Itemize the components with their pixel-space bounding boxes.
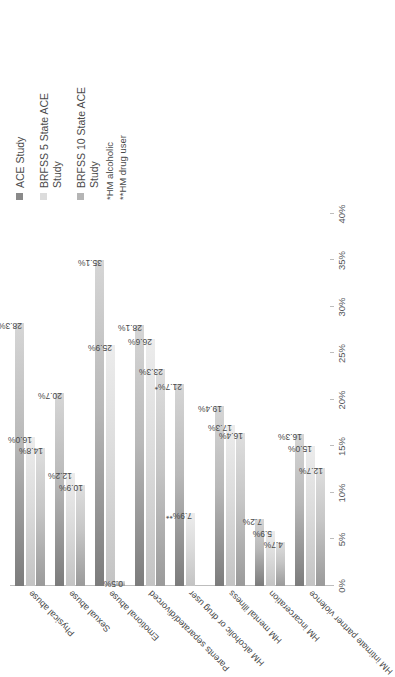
bar[interactable]: [175, 384, 184, 586]
legend-swatch-icon: [77, 193, 84, 200]
axis-tick-label: 10%: [336, 483, 347, 502]
bar[interactable]: [236, 433, 245, 586]
axis-tick-label: 30%: [336, 297, 347, 316]
axis-tick: [330, 260, 334, 261]
bar-value-label: 23.3%: [138, 367, 162, 377]
legend-item[interactable]: BRFSS 10 State ACE Study: [75, 50, 100, 200]
bar[interactable]: [135, 325, 144, 586]
axis-tick-label: 20%: [336, 390, 347, 409]
axis-tick: [330, 446, 334, 447]
bar[interactable]: [36, 448, 45, 586]
legend-item-label: BRFSS 5 State ACE Study: [38, 93, 63, 188]
axis-tick-label: 40%: [336, 204, 347, 223]
bar-value-label: 35.1%: [77, 258, 101, 268]
chart-footnotes: *HM alcoholic **HM drug user: [104, 135, 130, 200]
axis-tick-label: 15%: [336, 437, 347, 456]
bar-value-label: 21.7%*: [154, 382, 181, 392]
bar-value-label: 14.8%: [18, 446, 42, 456]
legend-item[interactable]: BRFSS 5 State ACE Study: [38, 50, 63, 200]
bar-value-label: 16.4%: [218, 431, 242, 441]
bar-value-label: 20.7%: [37, 392, 61, 402]
legend-item-label: BRFSS 10 State ACE Study: [75, 87, 100, 188]
bar-value-label: 7.2%: [242, 517, 261, 527]
axis-tick-label: 5%: [336, 533, 347, 547]
legend-item[interactable]: ACE Study: [14, 50, 26, 200]
bar[interactable]: [76, 485, 85, 586]
plot-area: 0%5%10%15%20%25%30%35%40%28.3%16.0%14.8%…: [10, 214, 330, 586]
bar-value-label: 19.4%: [197, 404, 221, 414]
bar-group: 20.7%12.2%10.9%: [55, 214, 85, 586]
bar[interactable]: [106, 345, 115, 586]
bar[interactable]: [295, 434, 304, 586]
bar-value-label: 26.6%: [128, 337, 152, 347]
footnote-hm-drug-user: **HM drug user: [117, 135, 130, 200]
bar-group: 7.2%5.9%4.7%: [255, 214, 285, 586]
bar-value-label: 12.7%: [298, 466, 322, 476]
bar-value-label: 12.2%: [48, 471, 72, 481]
bar-value-label: 7.9%**: [166, 511, 192, 521]
axis-tick: [330, 539, 334, 540]
bar[interactable]: [186, 513, 195, 586]
category-label: HM intimate partner violence: [306, 588, 394, 676]
bar-value-label: 16.3%: [277, 432, 301, 442]
bar-group: 19.4%17.3%16.4%: [215, 214, 245, 586]
axis-tick: [330, 353, 334, 354]
legend-swatch-icon: [40, 193, 47, 200]
bar-value-label: 10.9%: [58, 483, 82, 493]
axis-tick: [330, 492, 334, 493]
legend-item-label: ACE Study: [14, 137, 26, 188]
bar[interactable]: [316, 468, 325, 586]
bar-group: 35.1%25.9%0.5%: [95, 214, 125, 586]
bar-value-label: 28.1%: [117, 323, 141, 333]
chart-legend: ACE StudyBRFSS 5 State ACE StudyBRFSS 10…: [14, 50, 112, 200]
axis-tick-label: 25%: [336, 344, 347, 363]
legend-swatch-icon: [16, 193, 23, 200]
bar[interactable]: [156, 369, 165, 586]
category-label: HM alcoholic or drug user: [186, 588, 266, 668]
bar-value-label: 15.0%: [288, 445, 312, 455]
footnote-hm-alcoholic: *HM alcoholic: [104, 135, 117, 200]
bar-value-label: 28.3%: [0, 321, 22, 331]
bar[interactable]: [95, 260, 104, 586]
bar[interactable]: [226, 425, 235, 586]
bar-value-label: 25.9%: [88, 343, 112, 353]
axis-tick: [330, 306, 334, 307]
bar-value-label: 5.9%: [253, 529, 272, 539]
category-label: Parents separated/divorced: [146, 588, 231, 673]
bar-group: 28.1%26.6%23.3%: [135, 214, 165, 586]
axis-tick: [330, 585, 334, 586]
bar-group: 16.3%15.0%12.7%: [295, 214, 325, 586]
bar-value-label: 16.0%: [8, 435, 32, 445]
axis-tick: [330, 213, 334, 214]
axis-tick: [330, 399, 334, 400]
bar-value-label: 4.7%: [263, 540, 282, 550]
axis-tick-label: 0%: [336, 579, 347, 593]
axis-tick-label: 35%: [336, 251, 347, 270]
bar[interactable]: [26, 437, 35, 586]
bar-group: 21.7%*7.9%**: [175, 214, 205, 586]
